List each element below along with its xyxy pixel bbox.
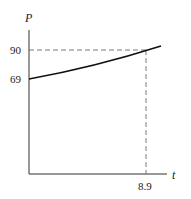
x-tick-8-9: 8.9 — [138, 180, 152, 192]
x-axis-label: t — [172, 168, 176, 182]
curve-p-of-t — [29, 46, 161, 79]
y-tick-90: 90 — [10, 44, 22, 56]
y-tick-69: 69 — [10, 73, 22, 85]
chart: P t 90 69 8.9 — [0, 0, 191, 199]
y-axis-label: P — [24, 11, 33, 25]
